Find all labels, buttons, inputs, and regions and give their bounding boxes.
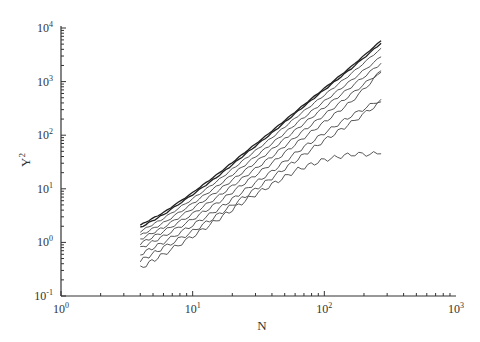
x-axis-title: N — [257, 318, 267, 333]
x-tick-label: 101 — [185, 301, 201, 316]
y-tick-label: 100 — [37, 234, 53, 249]
series-line-2 — [140, 43, 381, 227]
tick-labels: 10-1100101102103104100101102103 — [34, 20, 464, 316]
log-log-chart: 10-1100101102103104100101102103 N Y2 — [0, 0, 480, 342]
y-tick-label: 10-1 — [34, 288, 53, 303]
y-tick-label: 103 — [37, 74, 53, 89]
series-line-8 — [140, 99, 381, 255]
series-line-10 — [140, 152, 381, 268]
series-line-5 — [140, 63, 381, 239]
series-line-4 — [140, 57, 381, 235]
x-tick-label: 102 — [316, 301, 332, 316]
y-tick-label: 101 — [37, 181, 53, 196]
svg-text:Y2: Y2 — [17, 153, 33, 167]
y-axis-title: Y2 — [17, 153, 33, 167]
x-tick-label: 100 — [53, 301, 69, 316]
series-line-1 — [140, 41, 381, 225]
series-line-9 — [140, 102, 381, 262]
y-tick-label: 104 — [37, 20, 53, 35]
series-line-7 — [140, 72, 381, 247]
y-tick-label: 102 — [37, 127, 53, 142]
axes — [61, 26, 456, 296]
x-tick-label: 103 — [448, 301, 464, 316]
series-lines — [140, 41, 381, 268]
